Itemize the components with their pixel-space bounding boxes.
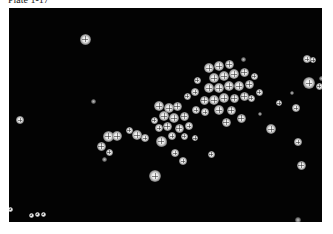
fluorescent-cell (266, 124, 276, 134)
fluorescent-cell (319, 76, 323, 81)
fluorescent-cell (276, 100, 282, 106)
fluorescent-cell (316, 83, 323, 90)
fluorescent-cell (179, 157, 187, 165)
fluorescent-cell (292, 104, 300, 112)
fluorescent-cell (214, 105, 224, 115)
fluorescent-cell (155, 124, 163, 132)
fluorescent-cell (204, 83, 214, 93)
fluorescent-cell (295, 217, 301, 222)
fluorescent-cell (245, 80, 254, 89)
fluorescent-cell (240, 68, 249, 77)
fluorescent-cell (185, 122, 193, 130)
fluorescent-cell (156, 136, 167, 147)
fluorescent-cell (159, 111, 169, 121)
fluorescent-cell (237, 114, 246, 123)
fluorescent-cell (294, 138, 302, 146)
fluorescent-cell (303, 77, 315, 89)
fluorescent-cell (248, 95, 255, 102)
fluorescent-cell (141, 134, 149, 142)
fluorescent-cell (234, 81, 244, 91)
fluorescent-cell (9, 207, 13, 212)
fluorescent-cell (175, 124, 184, 133)
fluorescent-cell (229, 69, 239, 79)
fluorescent-cell (310, 57, 316, 63)
fluorescent-cell (204, 63, 214, 73)
plate-caption: Plate 1-17 (8, 0, 49, 5)
fluorescent-cell (171, 149, 179, 157)
fluorescent-cell (91, 99, 96, 104)
fluorescent-cell (184, 93, 191, 100)
fluorescent-cell (214, 83, 224, 93)
fluorescent-cell (169, 113, 179, 123)
fluorescent-cell (154, 101, 164, 111)
micrograph-image (9, 8, 322, 222)
fluorescent-cell (251, 73, 258, 80)
fluorescent-cell (163, 122, 172, 131)
fluorescent-cell (219, 93, 229, 103)
fluorescent-cell (209, 73, 219, 83)
fluorescent-cell (181, 133, 188, 140)
fluorescent-cell (41, 212, 46, 217)
fluorescent-cell (102, 157, 107, 162)
fluorescent-cell (173, 102, 182, 111)
fluorescent-cell (80, 34, 91, 45)
fluorescent-cell (214, 61, 224, 71)
fluorescent-cell (297, 161, 306, 170)
fluorescent-cell (290, 91, 294, 95)
fluorescent-cell (258, 112, 262, 116)
fluorescent-cell (106, 149, 113, 156)
fluorescent-cell (29, 213, 34, 218)
fluorescent-cell (201, 108, 209, 116)
fluorescent-cell (225, 60, 234, 69)
fluorescent-cell (194, 77, 201, 84)
fluorescent-cell (16, 116, 24, 124)
fluorescent-cell (35, 212, 40, 217)
fluorescent-cell (192, 106, 200, 114)
fluorescent-cell (112, 131, 122, 141)
fluorescent-cell (180, 112, 189, 121)
fluorescent-cell (200, 96, 209, 105)
fluorescent-cell (209, 95, 219, 105)
fluorescent-cell (191, 88, 199, 96)
fluorescent-cell (256, 89, 263, 96)
fluorescent-cell (168, 132, 176, 140)
fluorescent-cell (241, 57, 246, 62)
fluorescent-cell (208, 151, 215, 158)
fluorescent-cell (219, 71, 229, 81)
fluorescent-cell (149, 170, 161, 182)
fluorescent-cell (227, 106, 236, 115)
fluorescent-cell (97, 142, 106, 151)
fluorescent-cell (224, 81, 234, 91)
fluorescent-cell (230, 94, 239, 103)
fluorescent-cell (151, 117, 158, 124)
fluorescent-cell (192, 135, 198, 141)
fluorescent-cell (222, 118, 231, 127)
